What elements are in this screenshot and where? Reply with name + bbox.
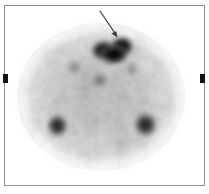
scan-frame-border (4, 5, 205, 186)
left-lateral-skin-marker (3, 74, 8, 83)
right-lateral-skin-marker (200, 74, 205, 83)
scintigram-image (5, 6, 204, 185)
scan-viewport (0, 0, 209, 194)
